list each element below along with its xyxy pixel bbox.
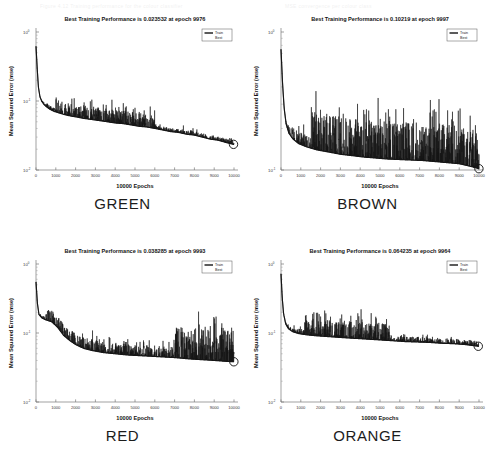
svg-text:0: 0 (280, 405, 283, 410)
svg-text:3000: 3000 (336, 405, 346, 410)
svg-text:2000: 2000 (71, 173, 81, 178)
svg-text:8000: 8000 (435, 405, 445, 410)
svg-text:Mean Squared Error (mse): Mean Squared Error (mse) (8, 298, 14, 368)
panel-label-red: RED (0, 427, 245, 444)
svg-text:10-1: 10-1 (268, 330, 276, 336)
panel-red: 10-210-110001000200030004000500060007000… (0, 234, 245, 465)
panel-label-green: GREEN (0, 195, 245, 212)
svg-text:8000: 8000 (435, 173, 445, 178)
svg-text:100: 100 (23, 29, 30, 35)
svg-text:10000: 10000 (473, 173, 485, 178)
svg-text:6000: 6000 (150, 173, 160, 178)
svg-text:7000: 7000 (415, 405, 425, 410)
svg-text:Best: Best (215, 36, 222, 40)
chart-svg-red: 10-210-110001000200030004000500060007000… (0, 234, 245, 430)
chart-svg-green: 10-210-110001000200030004000500060007000… (0, 2, 245, 198)
svg-text:Best Training Performance is 0: Best Training Performance is 0.10219 at … (311, 16, 449, 22)
svg-text:10-2: 10-2 (23, 399, 31, 405)
svg-text:Mean Squared Error (mse): Mean Squared Error (mse) (253, 298, 259, 368)
svg-text:6000: 6000 (395, 173, 405, 178)
svg-text:7000: 7000 (415, 173, 425, 178)
svg-text:Mean Squared Error (mse): Mean Squared Error (mse) (8, 66, 14, 136)
svg-text:5000: 5000 (130, 405, 140, 410)
svg-text:10000 Epochs: 10000 Epochs (116, 415, 153, 421)
svg-text:0: 0 (35, 173, 38, 178)
chart-red: 10-210-110001000200030004000500060007000… (0, 234, 245, 430)
chart-green: 10-210-110001000200030004000500060007000… (0, 2, 245, 198)
svg-text:Best Training Performance is 0: Best Training Performance is 0.038285 at… (65, 248, 206, 254)
svg-text:10000: 10000 (228, 173, 240, 178)
svg-text:6000: 6000 (150, 405, 160, 410)
svg-text:100: 100 (268, 261, 275, 267)
svg-text:5000: 5000 (130, 173, 140, 178)
svg-text:Train: Train (460, 263, 468, 267)
panel-label-orange: ORANGE (245, 427, 490, 444)
svg-text:0: 0 (35, 405, 38, 410)
svg-text:3000: 3000 (91, 173, 101, 178)
svg-text:100: 100 (23, 261, 30, 267)
svg-text:10-2: 10-2 (23, 167, 31, 173)
svg-text:10-2: 10-2 (268, 399, 276, 405)
svg-text:2000: 2000 (316, 405, 326, 410)
svg-text:1000: 1000 (51, 173, 61, 178)
svg-text:100: 100 (268, 29, 275, 35)
panel-green: 10-210-110001000200030004000500060007000… (0, 2, 245, 234)
chart-svg-brown: 10-1100010002000300040005000600070008000… (245, 2, 490, 198)
svg-text:8000: 8000 (190, 173, 200, 178)
chart-svg-orange: 10-210-110001000200030004000500060007000… (245, 234, 490, 430)
svg-text:3000: 3000 (91, 405, 101, 410)
svg-text:5000: 5000 (375, 405, 385, 410)
svg-text:4000: 4000 (356, 173, 366, 178)
svg-text:4000: 4000 (356, 405, 366, 410)
svg-text:10000 Epochs: 10000 Epochs (116, 183, 153, 189)
svg-text:10-1: 10-1 (268, 167, 276, 173)
svg-text:Train: Train (460, 31, 468, 35)
chart-orange: 10-210-110001000200030004000500060007000… (245, 234, 490, 430)
svg-text:Mean Squared Error (mse): Mean Squared Error (mse) (253, 66, 259, 136)
svg-text:10-1: 10-1 (23, 330, 31, 336)
svg-text:2000: 2000 (316, 173, 326, 178)
svg-text:9000: 9000 (210, 173, 220, 178)
svg-text:10000 Epochs: 10000 Epochs (361, 183, 398, 189)
svg-text:9000: 9000 (210, 405, 220, 410)
svg-text:Best: Best (215, 268, 222, 272)
svg-text:9000: 9000 (455, 173, 465, 178)
training-performance-figure: Figure 4.12 Training performance for the… (0, 0, 490, 465)
svg-text:Best Training Performance is 0: Best Training Performance is 0.023532 at… (65, 16, 206, 22)
svg-text:9000: 9000 (455, 405, 465, 410)
svg-text:1000: 1000 (51, 405, 61, 410)
svg-text:10000 Epochs: 10000 Epochs (361, 415, 398, 421)
svg-text:Train: Train (215, 263, 223, 267)
svg-text:1000: 1000 (296, 405, 306, 410)
svg-text:10000: 10000 (473, 405, 485, 410)
svg-text:1000: 1000 (296, 173, 306, 178)
svg-text:7000: 7000 (170, 405, 180, 410)
chart-brown: 10-1100010002000300040005000600070008000… (245, 2, 490, 198)
svg-text:6000: 6000 (395, 405, 405, 410)
panel-orange: 10-210-110001000200030004000500060007000… (245, 234, 490, 465)
svg-text:Best Training Performance is 0: Best Training Performance is 0.064235 at… (310, 248, 452, 254)
svg-text:0: 0 (280, 173, 283, 178)
svg-text:4000: 4000 (111, 405, 121, 410)
svg-text:Best: Best (460, 36, 467, 40)
panel-label-brown: BROWN (245, 195, 490, 212)
svg-text:5000: 5000 (375, 173, 385, 178)
panel-brown: 10-1100010002000300040005000600070008000… (245, 2, 490, 234)
svg-text:8000: 8000 (190, 405, 200, 410)
svg-text:3000: 3000 (336, 173, 346, 178)
svg-text:2000: 2000 (71, 405, 81, 410)
svg-text:10-1: 10-1 (23, 98, 31, 104)
svg-text:Best: Best (460, 268, 467, 272)
svg-text:Train: Train (215, 31, 223, 35)
svg-text:4000: 4000 (111, 173, 121, 178)
svg-text:7000: 7000 (170, 173, 180, 178)
svg-text:10000: 10000 (228, 405, 240, 410)
